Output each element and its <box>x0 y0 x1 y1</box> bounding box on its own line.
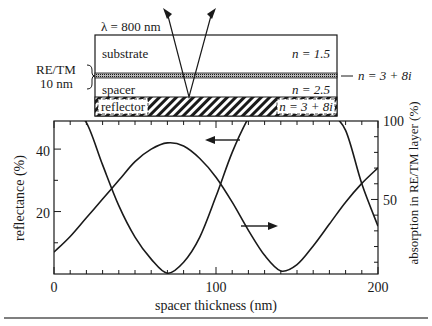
re-tm-layer <box>95 73 337 78</box>
incident-arrow-icon <box>163 8 172 19</box>
arrow-right-icon <box>268 222 278 230</box>
x-axis-label: spacer thickness (nm) <box>155 298 277 314</box>
y2-tick-100: 100 <box>383 114 404 129</box>
reflector-label: reflector <box>101 99 146 114</box>
re-tm-thickness: 10 nm <box>40 76 73 91</box>
spacer-label: spacer <box>102 82 136 97</box>
x-tick-0: 0 <box>51 280 58 295</box>
reflected-arrow-icon <box>207 8 216 19</box>
x-tick-200: 200 <box>368 280 389 295</box>
y-tick-40: 40 <box>36 144 50 159</box>
figure: λ = 800 nm substrate n = 1.5 spacer n = … <box>0 0 432 326</box>
y-tick-20: 20 <box>36 206 50 221</box>
wavelength-label: λ = 800 nm <box>101 19 161 34</box>
arrow-left-icon <box>205 136 215 144</box>
substrate-index: n = 1.5 <box>292 46 331 61</box>
reflector-index: n = 3 + 8i <box>279 99 333 114</box>
reflectance-curve <box>54 143 378 272</box>
substrate-label: substrate <box>102 46 148 61</box>
re-tm-index: n = 3 + 8i <box>358 68 412 83</box>
bracket-icon <box>87 65 95 89</box>
y2-axis-label: absorption in RE/TM layer (%) <box>406 101 421 264</box>
layer-diagram: λ = 800 nm substrate n = 1.5 spacer n = … <box>36 8 412 116</box>
y-axis-label: reflectance (%) <box>12 155 28 241</box>
x-tick-100: 100 <box>206 280 227 295</box>
y2-tick-50: 50 <box>383 193 397 208</box>
re-tm-label: RE/TM <box>36 62 76 77</box>
spacer-index: n = 2.5 <box>292 82 331 97</box>
